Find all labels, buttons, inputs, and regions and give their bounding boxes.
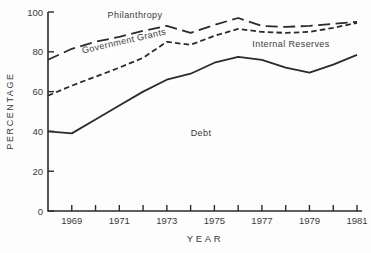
x-tick-label: 1979 (299, 215, 320, 226)
y-tick-label: 0 (38, 206, 43, 217)
band-label-internal-reserves: Internal Reserves (252, 39, 329, 49)
y-tick-label: 80 (32, 46, 43, 57)
x-tick-label: 1977 (251, 215, 272, 226)
x-tick-label: 1971 (109, 215, 130, 226)
y-tick-label: 20 (32, 166, 43, 177)
x-tick-label: 1981 (346, 215, 367, 226)
y-tick-label: 60 (32, 86, 43, 97)
band-label-philanthropy: Philanthropy (108, 10, 163, 20)
x-tick-label: 1975 (204, 215, 225, 226)
x-tick-label: 1973 (156, 215, 177, 226)
y-tick-label: 40 (32, 126, 43, 137)
series-line-short-dash (48, 23, 357, 96)
x-axis-title: YEAR (187, 233, 223, 244)
series-line-solid (48, 55, 357, 134)
line-chart-figure: 0204060801001969197119731975197719791981… (0, 0, 371, 253)
x-tick-label: 1969 (61, 215, 82, 226)
band-label-debt: Debt (191, 128, 212, 138)
y-axis-title: PERCENTAGE (5, 72, 15, 149)
plot-svg: 0204060801001969197119731975197719791981 (0, 0, 371, 253)
y-tick-label: 100 (27, 7, 43, 18)
